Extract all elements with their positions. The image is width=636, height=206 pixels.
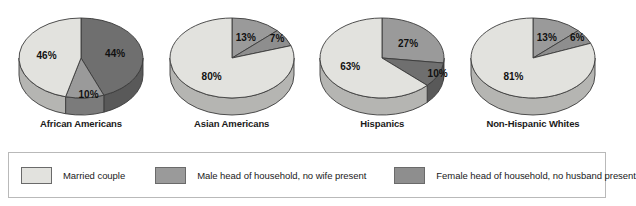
pie-slice-label: 44%: [105, 48, 125, 59]
legend-swatch-icon: [394, 167, 425, 184]
pie-graphic-1: 13%7%80%: [157, 0, 307, 118]
pie-top-faces-1: [170, 18, 294, 98]
pie-cell-1: 13%7%80%Asian Americans: [157, 0, 307, 140]
pie-slice-label: 10%: [79, 89, 99, 100]
pie-graphic-0: 44%10%46%: [6, 0, 156, 118]
pie-slice-label: 10%: [428, 68, 448, 79]
legend-item-2: Female head of household, no husband pre…: [394, 167, 636, 184]
pie-slice-label: 27%: [398, 38, 418, 49]
pie-cell-0: 44%10%46%African Americans: [6, 0, 156, 140]
pie-slice-label: 81%: [503, 71, 523, 82]
pie-slice-label: 63%: [340, 61, 360, 72]
pie-slice-label: 6%: [570, 32, 585, 43]
pie-top-faces-2: [320, 18, 444, 98]
pie-graphic-2: 27%10%63%: [307, 0, 457, 118]
pie-slice-label: 80%: [201, 71, 221, 82]
pie-slice-label: 7%: [270, 33, 285, 44]
chart-legend: Married coupleMale head of household, no…: [8, 152, 606, 198]
legend-label: Married couple: [63, 170, 125, 181]
pie-chart-0: 44%10%46%: [6, 0, 156, 118]
legend-label: Male head of household, no wife present: [197, 170, 366, 181]
pie-caption: African Americans: [40, 118, 122, 129]
pie-slice-label: 13%: [537, 32, 557, 43]
legend-item-0: Married couple: [21, 167, 125, 184]
pie-caption: Hispanics: [360, 118, 404, 129]
pie-chart-3: 13%6%81%: [458, 0, 608, 118]
pie-top-faces-3: [471, 18, 595, 98]
pie-caption: Asian Americans: [194, 118, 269, 129]
pie-chart-row: 44%10%46%African Americans13%7%80%Asian …: [0, 0, 614, 140]
pie-slice-label: 46%: [37, 50, 57, 61]
legend-swatch-icon: [21, 167, 52, 184]
pie-cell-3: 13%6%81%Non-Hispanic Whites: [458, 0, 608, 140]
pie-slice-label: 13%: [235, 32, 255, 43]
legend-swatch-icon: [155, 167, 186, 184]
pie-graphic-3: 13%6%81%: [458, 0, 608, 118]
legend-item-1: Male head of household, no wife present: [155, 167, 366, 184]
pie-chart-2: 27%10%63%: [307, 0, 457, 118]
pie-caption: Non-Hispanic Whites: [486, 118, 579, 129]
legend-label: Female head of household, no husband pre…: [436, 170, 636, 181]
pie-cell-2: 27%10%63%Hispanics: [307, 0, 457, 140]
pie-chart-1: 13%7%80%: [157, 0, 307, 118]
